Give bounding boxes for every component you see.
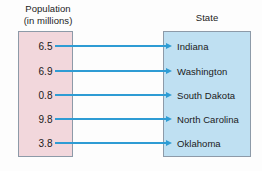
mapping-arrow-head-icon xyxy=(166,116,172,122)
mapping-arrow-head-icon xyxy=(166,140,172,146)
mapping-arrow-head-icon xyxy=(166,68,172,74)
range-value: South Dakota xyxy=(177,90,235,101)
range-value: Oklahoma xyxy=(177,138,221,149)
range-heading: State xyxy=(163,12,251,24)
domain-heading: Population (in millions) xyxy=(6,3,90,26)
mapping-arrow-line xyxy=(55,142,170,144)
mapping-arrow-head-icon xyxy=(166,92,172,98)
mapping-arrow-line xyxy=(55,45,170,47)
mapping-diagram: Population (in millions) State 6.5 India… xyxy=(0,0,262,171)
mapping-arrow-head-icon xyxy=(166,43,172,49)
domain-heading-line1: Population xyxy=(6,3,90,15)
mapping-arrow-line xyxy=(55,70,170,72)
mapping-arrow-line xyxy=(55,118,170,120)
domain-heading-line2: (in millions) xyxy=(6,15,90,27)
mapping-arrow-line xyxy=(55,94,170,96)
range-value: Indiana xyxy=(177,41,209,52)
range-value: North Carolina xyxy=(177,114,239,125)
range-value: Washington xyxy=(177,66,227,77)
